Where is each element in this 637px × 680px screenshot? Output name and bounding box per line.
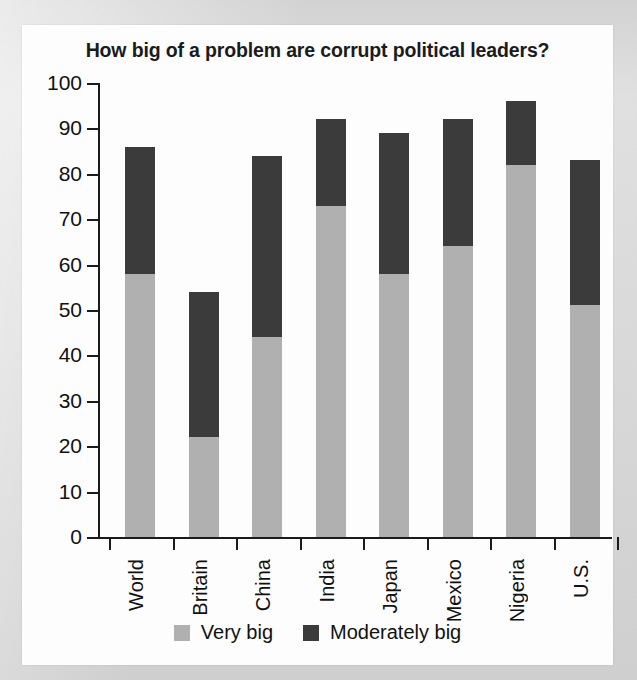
bar-segment-very-big	[189, 437, 219, 537]
bar-segment-moderately-big	[125, 147, 155, 274]
x-axis-label-britain: Britain	[189, 559, 219, 616]
x-axis-label-u-s: U.S.	[570, 559, 600, 598]
legend-item-very-big[interactable]: Very big	[174, 621, 273, 644]
bar-segment-moderately-big	[189, 292, 219, 437]
bar-japan	[379, 133, 409, 537]
y-axis-line	[98, 83, 100, 538]
bar-segment-moderately-big	[379, 133, 409, 274]
x-axis-label-world: World	[125, 559, 155, 611]
bar-segment-moderately-big	[570, 160, 600, 305]
y-axis-tick-label: 20	[59, 434, 82, 458]
chart-legend: Very bigModerately big	[22, 621, 613, 644]
x-axis-tick-mark	[300, 537, 302, 550]
bar-u-s	[570, 160, 600, 537]
y-axis-tick-label: 50	[59, 298, 82, 322]
dark-gray-swatch-icon	[303, 625, 319, 641]
y-axis-tick-mark	[87, 355, 98, 357]
bar-world	[125, 147, 155, 537]
x-axis-label-mexico: Mexico	[443, 559, 473, 622]
x-axis-tick-mark	[490, 537, 492, 550]
chart-title: How big of a problem are corrupt politic…	[22, 39, 613, 62]
x-axis-tick-mark	[363, 537, 365, 550]
bar-segment-very-big	[125, 274, 155, 537]
plot-area: 0102030405060708090100 WorldBritainChina…	[98, 83, 613, 537]
bar-nigeria	[506, 101, 536, 537]
bar-segment-moderately-big	[316, 119, 346, 205]
y-axis-tick-label: 100	[47, 71, 82, 95]
x-axis-line	[98, 537, 612, 539]
legend-item-moderately-big[interactable]: Moderately big	[303, 621, 461, 644]
y-axis-tick-mark	[87, 537, 98, 539]
y-axis-tick-mark	[87, 310, 98, 312]
bar-segment-very-big	[379, 274, 409, 537]
x-axis-tick-mark	[173, 537, 175, 550]
y-axis-tick-mark	[87, 492, 98, 494]
bar-segment-very-big	[570, 305, 600, 537]
bar-segment-moderately-big	[443, 119, 473, 246]
legend-label: Very big	[201, 621, 273, 644]
x-axis-label-india: India	[316, 559, 346, 602]
bar-india	[316, 119, 346, 537]
bar-segment-very-big	[316, 206, 346, 537]
y-axis-tick-label: 40	[59, 343, 82, 367]
bar-segment-very-big	[252, 337, 282, 537]
x-axis-label-japan: Japan	[379, 559, 409, 614]
x-axis-label-nigeria: Nigeria	[506, 559, 536, 622]
light-gray-swatch-icon	[174, 625, 190, 641]
y-axis-tick-label: 30	[59, 389, 82, 413]
x-axis-tick-mark	[109, 537, 111, 550]
chart-panel: How big of a problem are corrupt politic…	[22, 25, 613, 665]
y-axis-tick-mark	[87, 446, 98, 448]
y-axis-tick-mark	[87, 83, 98, 85]
bar-china	[252, 156, 282, 537]
x-axis-tick-mark	[427, 537, 429, 550]
y-axis-tick-label: 80	[59, 162, 82, 186]
y-axis-tick-mark	[87, 174, 98, 176]
y-axis-tick-label: 10	[59, 480, 82, 504]
y-axis-tick-mark	[87, 219, 98, 221]
y-axis-tick-label: 0	[70, 525, 82, 549]
y-axis-tick-mark	[87, 128, 98, 130]
legend-label: Moderately big	[330, 621, 461, 644]
bar-segment-very-big	[506, 165, 536, 537]
y-axis-tick-mark	[87, 265, 98, 267]
y-axis-tick-label: 70	[59, 207, 82, 231]
bar-segment-very-big	[443, 246, 473, 537]
bar-britain	[189, 292, 219, 537]
x-axis-tick-mark	[617, 537, 619, 550]
y-axis-tick-label: 60	[59, 253, 82, 277]
y-axis-tick-mark	[87, 401, 98, 403]
y-axis-tick-label: 90	[59, 116, 82, 140]
x-axis-tick-mark	[554, 537, 556, 550]
x-axis-label-china: China	[252, 559, 282, 611]
bar-mexico	[443, 119, 473, 537]
x-axis-tick-mark	[236, 537, 238, 550]
bar-segment-moderately-big	[252, 156, 282, 338]
bar-segment-moderately-big	[506, 101, 536, 165]
